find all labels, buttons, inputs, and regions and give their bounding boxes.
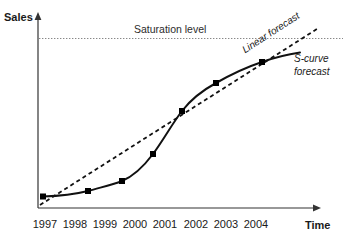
data-point-1997 [40, 194, 46, 200]
chart-plot-area [0, 0, 344, 238]
data-point-markers [40, 59, 265, 200]
data-point-2000 [150, 151, 156, 157]
data-point-2001 [179, 108, 185, 114]
y-axis [35, 12, 42, 208]
s-curve-forecast-label-line1: S-curve [294, 52, 330, 65]
data-point-1998 [85, 188, 91, 194]
saturation-level-label: Saturation level [134, 23, 206, 35]
x-tick-2004: 2004 [236, 218, 276, 230]
data-point-2003 [259, 59, 265, 65]
x-axis [38, 205, 321, 212]
s-curve-forecast-label: S-curve forecast [294, 52, 330, 78]
s-curve-line [43, 53, 300, 197]
chart-figure: Sales Time Saturation level Linear forec… [0, 0, 344, 238]
x-axis-title: Time [305, 219, 330, 231]
y-axis-title: Sales [4, 11, 33, 23]
data-point-1999 [119, 178, 125, 184]
s-curve-forecast-label-line2: forecast [294, 65, 330, 78]
data-point-2002 [213, 80, 219, 86]
